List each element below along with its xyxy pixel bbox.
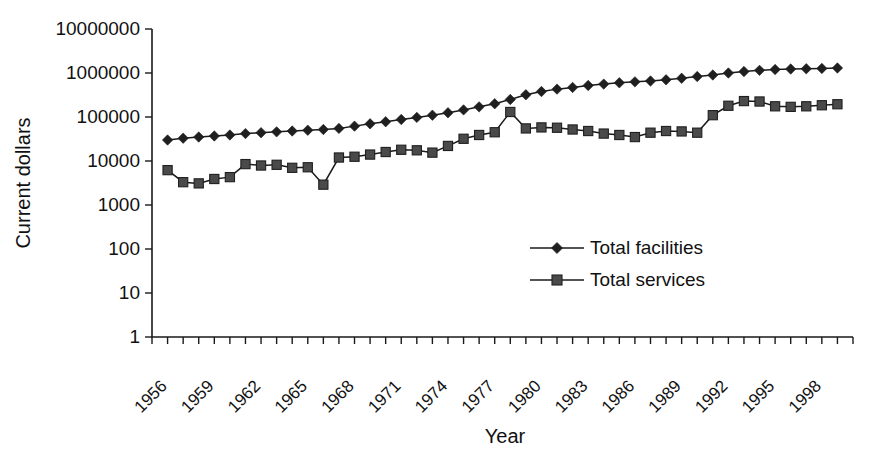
legend-item-2[interactable]: Total services bbox=[530, 269, 705, 290]
data-point bbox=[786, 102, 795, 111]
data-point bbox=[162, 135, 172, 145]
data-point bbox=[490, 128, 499, 137]
series-line bbox=[168, 101, 838, 185]
x-tick-label: 1971 bbox=[364, 376, 404, 416]
data-point bbox=[225, 130, 235, 140]
data-point bbox=[288, 163, 297, 172]
data-point bbox=[583, 80, 593, 90]
data-point bbox=[692, 71, 702, 81]
data-point bbox=[179, 178, 188, 187]
data-point bbox=[645, 76, 655, 86]
series-2 bbox=[163, 96, 842, 189]
data-point bbox=[599, 79, 609, 89]
x-tick-label: 1965 bbox=[271, 376, 311, 416]
x-tick-label: 1986 bbox=[598, 376, 638, 416]
axis-lines bbox=[152, 29, 853, 337]
data-point bbox=[755, 97, 764, 106]
data-point bbox=[537, 123, 546, 132]
y-tick-label: 100000 bbox=[77, 106, 140, 127]
data-point bbox=[801, 64, 811, 74]
data-point bbox=[194, 179, 203, 188]
x-tick-label: 1992 bbox=[691, 376, 731, 416]
legend-label: Total services bbox=[590, 269, 705, 290]
data-point bbox=[381, 147, 390, 156]
data-point bbox=[754, 65, 764, 75]
y-tick-label: 1 bbox=[129, 326, 140, 347]
y-tick-label: 10000000 bbox=[55, 18, 140, 39]
data-point bbox=[412, 112, 422, 122]
data-point bbox=[817, 101, 826, 110]
data-point bbox=[661, 75, 671, 85]
y-tick-label: 10000 bbox=[87, 150, 140, 171]
data-point bbox=[832, 63, 842, 73]
data-point bbox=[552, 84, 562, 94]
data-point bbox=[318, 124, 328, 134]
data-point bbox=[630, 77, 640, 87]
data-point bbox=[194, 132, 204, 142]
data-point bbox=[802, 102, 811, 111]
data-point bbox=[319, 180, 328, 189]
data-point bbox=[474, 102, 484, 112]
y-tick-label: 1000 bbox=[98, 194, 140, 215]
data-point bbox=[724, 101, 733, 110]
data-point bbox=[365, 119, 375, 129]
data-point bbox=[505, 94, 515, 104]
data-point bbox=[615, 130, 624, 139]
data-point bbox=[785, 64, 795, 74]
data-point bbox=[334, 123, 344, 133]
series-line bbox=[168, 68, 838, 140]
data-point bbox=[350, 152, 359, 161]
data-point bbox=[646, 128, 655, 137]
y-axis-title: Current dollars bbox=[12, 117, 34, 248]
data-point bbox=[427, 110, 437, 120]
x-tick-label: 1995 bbox=[738, 376, 778, 416]
data-point bbox=[209, 131, 219, 141]
data-point bbox=[676, 73, 686, 83]
data-point bbox=[521, 124, 530, 133]
data-point bbox=[770, 64, 780, 74]
data-point bbox=[459, 134, 468, 143]
data-point bbox=[256, 127, 266, 137]
data-point bbox=[739, 96, 748, 105]
x-tick-label: 1956 bbox=[131, 376, 171, 416]
data-point bbox=[630, 132, 639, 141]
y-tick-label: 100 bbox=[108, 238, 140, 259]
data-point bbox=[458, 105, 468, 115]
data-point bbox=[365, 150, 374, 159]
data-point bbox=[396, 114, 406, 124]
data-point bbox=[490, 99, 500, 109]
x-tick-label: 1974 bbox=[411, 376, 451, 416]
data-point bbox=[225, 173, 234, 182]
x-tick-label: 1983 bbox=[551, 376, 591, 416]
data-point bbox=[303, 163, 312, 172]
legend-marker-square-icon bbox=[552, 275, 562, 285]
data-point bbox=[552, 123, 561, 132]
x-tick-label: 1998 bbox=[785, 376, 825, 416]
y-tick-label: 1000000 bbox=[66, 62, 140, 83]
data-point bbox=[614, 78, 624, 88]
data-point bbox=[771, 102, 780, 111]
data-point bbox=[567, 82, 577, 92]
data-point bbox=[428, 148, 437, 157]
data-point bbox=[272, 160, 281, 169]
data-point bbox=[178, 133, 188, 143]
y-tick-label: 10 bbox=[119, 282, 140, 303]
data-point bbox=[334, 153, 343, 162]
x-tick-label: 1962 bbox=[224, 376, 264, 416]
data-point bbox=[443, 108, 453, 118]
legend-item-1[interactable]: Total facilities bbox=[530, 237, 703, 258]
data-point bbox=[256, 161, 265, 170]
legend-marker-diamond-icon bbox=[551, 242, 562, 253]
data-point bbox=[817, 63, 827, 73]
data-point bbox=[723, 68, 733, 78]
data-point bbox=[443, 141, 452, 150]
data-point bbox=[833, 100, 842, 109]
x-tick-label: 1977 bbox=[458, 376, 498, 416]
x-tick-label: 1980 bbox=[505, 376, 545, 416]
data-point bbox=[240, 128, 250, 138]
data-point bbox=[210, 174, 219, 183]
data-point bbox=[287, 126, 297, 136]
data-point bbox=[271, 127, 281, 137]
data-point bbox=[584, 126, 593, 135]
data-point bbox=[349, 121, 359, 131]
